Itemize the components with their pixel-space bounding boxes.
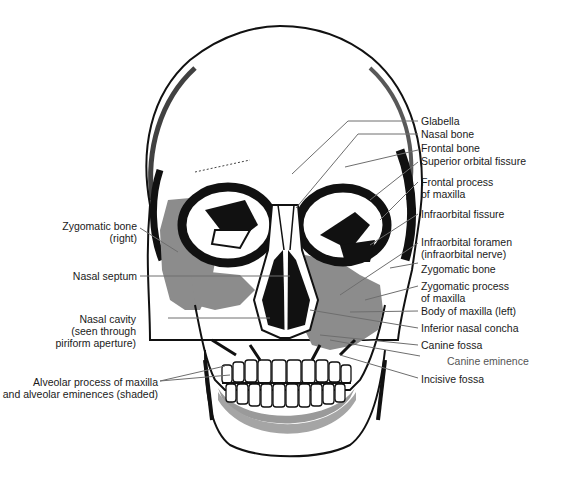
label-incisive-fossa: Incisive fossa bbox=[421, 373, 484, 385]
teeth bbox=[222, 360, 351, 407]
label-frontal-process-of-maxilla: Frontal process of maxilla bbox=[421, 176, 493, 200]
label-inferior-nasal-concha: Inferior nasal concha bbox=[421, 322, 518, 334]
label-nasal-bone: Nasal bone bbox=[421, 128, 474, 140]
label-zygomatic-process-of-maxilla: Zygomatic process of maxilla bbox=[421, 280, 509, 304]
label-superior-orbital-fissure: Superior orbital fissure bbox=[421, 155, 526, 167]
label-nasal-septum: Nasal septum bbox=[73, 270, 137, 282]
label-infraorbital-foramen: Infraorbital foramen (infraorbital nerve… bbox=[421, 236, 512, 260]
label-canine-eminence: Canine eminence bbox=[447, 355, 529, 367]
label-frontal-bone: Frontal bone bbox=[421, 142, 480, 154]
label-infraorbital-fissure: Infraorbital fissure bbox=[421, 208, 504, 220]
label-canine-fossa: Canine fossa bbox=[421, 339, 482, 351]
label-nasal-cavity: Nasal cavity (seen through piriform aper… bbox=[55, 313, 136, 349]
skull-diagram: Glabella Nasal bone Frontal bone Superio… bbox=[0, 0, 582, 477]
label-body-of-maxilla-left: Body of maxilla (left) bbox=[421, 305, 516, 317]
label-zygomatic-bone: Zygomatic bone bbox=[421, 263, 496, 275]
label-glabella: Glabella bbox=[421, 115, 460, 127]
label-zygomatic-bone-right: Zygomatic bone (right) bbox=[62, 220, 137, 244]
label-alveolar-process: Alveolar process of maxilla and alveolar… bbox=[3, 376, 158, 400]
